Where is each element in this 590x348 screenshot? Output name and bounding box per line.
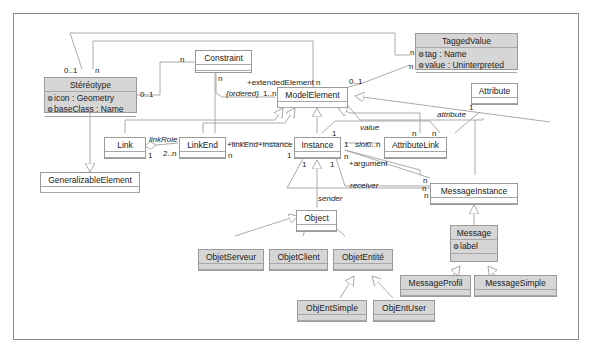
role-label: +extendedElement <box>247 78 314 87</box>
multiplicity: 2..n <box>163 149 176 158</box>
class-name: Stéréotype <box>45 78 136 92</box>
class-objetentite[interactable]: ObjetEntité <box>333 249 393 271</box>
class-name: LinkEnd <box>180 138 225 152</box>
class-objetserveur[interactable]: ObjetServeur <box>198 249 264 271</box>
attribute-row: ⚙value : Uninterpreted <box>418 60 515 71</box>
class-instance[interactable]: Instance <box>294 137 341 159</box>
multiplicity: n <box>409 62 413 71</box>
class-object[interactable]: Object <box>296 210 337 232</box>
class-linkend[interactable]: LinkEnd <box>179 137 226 159</box>
multiplicity: 1 <box>344 140 348 149</box>
class-attribute[interactable]: Attribute <box>471 83 518 105</box>
attribute-icon: ⚙ <box>47 106 53 113</box>
class-name: ObjetClient <box>270 250 327 264</box>
role-label: value <box>360 123 379 132</box>
role-label: attribute <box>437 110 466 119</box>
multiplicity: 1 <box>330 160 334 169</box>
class-attributes <box>334 264 392 270</box>
multiplicity: 1..n <box>263 89 276 98</box>
class-name: MessageProfil <box>401 276 470 290</box>
class-name: Instance <box>295 138 340 152</box>
attribute-icon: ⚙ <box>47 95 53 102</box>
attribute-row: ⚙baseClass : Name <box>47 104 134 115</box>
attribute-row: ⚙icon : Geometry <box>47 93 134 104</box>
attribute-icon: ⚙ <box>418 51 424 58</box>
class-messageinstance[interactable]: MessageInstance <box>430 183 518 205</box>
class-messagesimple[interactable]: MessageSimple <box>474 275 557 297</box>
role-label: slot <box>355 140 367 149</box>
role-label: linkRole <box>149 135 177 144</box>
multiplicity: 0..n <box>367 140 380 149</box>
role-label: +instance <box>258 140 292 149</box>
multiplicity: 0..1 <box>64 66 77 75</box>
class-attributes <box>270 264 327 270</box>
class-messageprofil[interactable]: MessageProfil <box>400 275 471 297</box>
multiplicity: 0..1 <box>349 77 362 86</box>
role-label: sender <box>318 194 342 203</box>
class-name: Attribute <box>472 84 517 98</box>
class-modelelement[interactable]: ModelElement <box>277 87 348 108</box>
class-attributes <box>298 315 366 321</box>
class-taggedvalue[interactable]: TaggedValue ⚙tag : Name ⚙value : Uninter… <box>415 33 518 70</box>
class-objetclient[interactable]: ObjetClient <box>269 249 328 271</box>
class-name: AttributeLink <box>385 138 446 152</box>
class-name: MessageInstance <box>431 184 517 198</box>
attribute-icon: ⚙ <box>418 62 424 69</box>
class-link[interactable]: Link <box>104 137 146 159</box>
class-attributes <box>374 315 434 321</box>
class-name: MessageSimple <box>475 276 556 290</box>
class-objentuser[interactable]: ObjEntUser <box>373 300 435 322</box>
role-label: receiver <box>350 181 378 190</box>
class-constraint[interactable]: Constraint <box>195 50 252 73</box>
class-attributelink[interactable]: AttributeLink <box>384 137 447 159</box>
multiplicity: 1 <box>469 103 473 112</box>
class-attributes: ⚙label <box>451 240 497 254</box>
class-attributes <box>199 264 263 270</box>
class-message[interactable]: Message ⚙label <box>450 225 498 262</box>
attribute-row: ⚙tag : Name <box>418 49 515 60</box>
class-name: Link <box>105 138 145 152</box>
class-attributes <box>385 152 446 158</box>
class-attributes <box>401 290 470 296</box>
class-operations <box>45 117 136 122</box>
class-name: GeneralizableElement <box>41 173 139 187</box>
class-attributes: ⚙icon : Geometry ⚙baseClass : Name <box>45 92 136 117</box>
multiplicity: 1 <box>332 129 336 138</box>
class-attributes <box>196 65 251 71</box>
class-attributes <box>431 198 517 204</box>
class-attributes: ⚙tag : Name ⚙value : Uninterpreted <box>416 48 517 73</box>
multiplicity: n <box>180 55 184 64</box>
class-name: Constraint <box>196 51 251 65</box>
multiplicity: n <box>410 48 414 57</box>
multiplicity: n <box>95 66 99 75</box>
class-attributes <box>41 187 139 193</box>
multiplicity: n <box>228 151 232 160</box>
class-name: Object <box>297 211 336 225</box>
multiplicity: 1 <box>287 151 291 160</box>
class-attributes <box>105 152 145 158</box>
role-label: +argument <box>349 159 387 168</box>
attribute-row: ⚙label <box>453 241 495 252</box>
class-objentsimple[interactable]: ObjEntSimple <box>297 300 367 322</box>
class-stereotype[interactable]: Stéréotype ⚙icon : Geometry ⚙baseClass :… <box>44 77 137 113</box>
class-name: Message <box>451 226 497 240</box>
multiplicity: n <box>412 129 416 138</box>
class-attributes <box>297 225 336 231</box>
class-generalizableelement[interactable]: GeneralizableElement <box>40 172 140 193</box>
class-name: ObjetServeur <box>199 250 263 264</box>
multiplicity: 1 <box>302 160 306 169</box>
class-attributes <box>180 152 225 158</box>
multiplicity: n <box>424 191 428 200</box>
class-name: ModelElement <box>278 88 347 102</box>
class-name: ObjEntUser <box>374 301 434 315</box>
multiplicity: n <box>344 152 348 161</box>
multiplicity: n <box>316 78 320 87</box>
class-name: ObjEntSimple <box>298 301 366 315</box>
ordered-constraint-label: {ordered} <box>226 89 259 98</box>
class-name: TaggedValue <box>416 34 517 48</box>
class-name: ObjetEntité <box>334 250 392 264</box>
class-attributes <box>475 290 556 296</box>
class-attributes <box>278 102 347 108</box>
multiplicity: 1 <box>148 151 152 160</box>
multiplicity: n <box>432 129 436 138</box>
